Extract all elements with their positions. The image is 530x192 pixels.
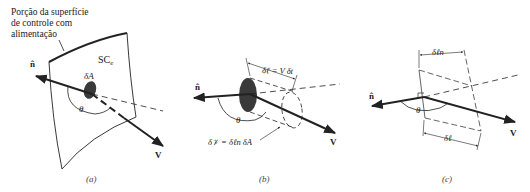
normal-length-label: δℓn — [432, 47, 444, 57]
cylinder-top-edge — [250, 78, 295, 92]
volume-label: δ𝒱 = δℓn δA — [208, 137, 253, 147]
normal-label: n̂ — [195, 82, 200, 92]
velocity-label: V — [510, 128, 517, 138]
surface-label: SCe — [98, 54, 113, 67]
parallelogram-right — [464, 50, 481, 131]
caption-c: (c) — [442, 174, 452, 184]
caption-b: (b) — [259, 174, 270, 184]
velocity-vector — [124, 118, 163, 146]
normal-extension-dashed — [250, 84, 340, 94]
normal-label: n̂ — [369, 91, 374, 101]
normal-label: n̂ — [30, 59, 35, 69]
dimension-ext-right — [292, 75, 297, 91]
length-dimension-ext-right — [477, 133, 481, 150]
annotation-line-2: de controle com — [11, 18, 73, 28]
panel-c: n̂ V θ δℓn δℓ (c) — [369, 47, 518, 184]
angle-label: θ — [79, 104, 84, 114]
parallelogram-bottom — [425, 118, 481, 131]
velocity-vector — [250, 94, 335, 133]
velocity-label: V — [155, 150, 162, 160]
volume-leader-line — [260, 127, 280, 140]
inflow-edge — [49, 33, 127, 62]
caption-a: (a) — [86, 174, 97, 184]
surface-bottom-edge — [62, 117, 136, 169]
parallelogram-top — [419, 70, 472, 86]
panel-a: Porção da superfície de controle com ali… — [11, 7, 163, 184]
dimension-ext-left — [246, 58, 250, 76]
panel-b: n̂ V δℓ = V δt θ δ𝒱 = δℓn δA (b) — [194, 58, 340, 184]
annotation-line-3: alimentação — [11, 29, 57, 39]
annotation-line-1: Porção da superfície — [11, 7, 89, 17]
length-label: δℓ = V δt — [262, 65, 294, 76]
area-label: δA — [84, 71, 94, 81]
velocity-behind-surface — [92, 94, 124, 118]
annotation-leader-line — [59, 40, 64, 51]
surface-left-edge — [49, 62, 62, 169]
angle-label: θ — [236, 115, 241, 125]
velocity-label: V — [330, 137, 337, 147]
length-label: δℓ — [444, 133, 452, 143]
length-dimension-ext-left — [423, 120, 424, 136]
control-surface-diagram: Porção da superfície de controle com ali… — [0, 0, 530, 192]
angle-label: θ — [416, 105, 421, 115]
velocity-vector — [424, 97, 515, 122]
